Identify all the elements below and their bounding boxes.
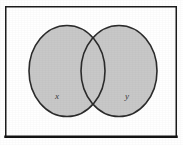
venn-shaded-union <box>29 26 157 117</box>
venn-diagram-figure: x y <box>0 0 183 145</box>
set-x-label: x <box>54 91 59 101</box>
set-y-label: y <box>124 91 129 101</box>
venn-diagram-canvas: x y <box>0 0 183 145</box>
